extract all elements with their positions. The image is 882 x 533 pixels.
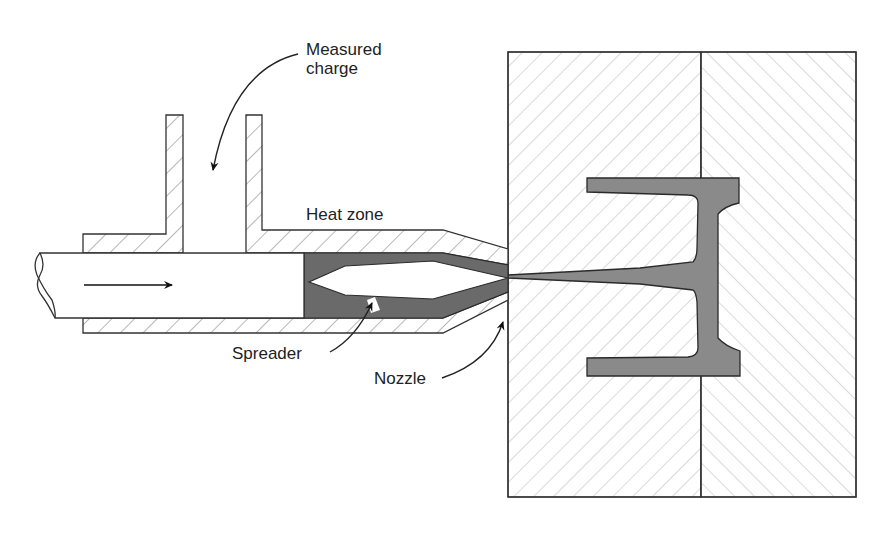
feed-port-left-wall (83, 115, 183, 253)
label-measured-charge: Measured charge (306, 40, 382, 78)
barrel-upper-wall (246, 115, 508, 265)
label-nozzle: Nozzle (374, 369, 426, 388)
mold-half-right (701, 52, 856, 497)
label-measured-charge-line2: charge (306, 59, 382, 78)
label-spreader: Spreader (232, 344, 302, 363)
label-measured-charge-line1: Measured (306, 40, 382, 59)
nozzle-leader (442, 322, 503, 378)
plunger (35, 253, 304, 318)
molding-diagram (0, 0, 882, 533)
label-heat-zone: Heat zone (306, 205, 384, 224)
